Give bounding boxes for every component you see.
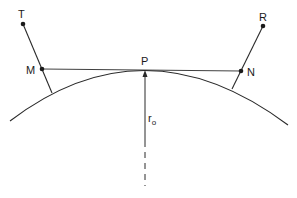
point-R xyxy=(261,24,266,29)
geometry-diagram: T R M N P ro xyxy=(0,0,297,198)
line-R-to-surface xyxy=(232,26,263,89)
label-radius-subscript: o xyxy=(152,118,157,127)
label-radius: ro xyxy=(148,112,157,127)
point-M xyxy=(40,67,45,72)
point-N xyxy=(239,69,244,74)
line-T-to-surface xyxy=(23,24,52,93)
point-T xyxy=(21,22,26,27)
label-P: P xyxy=(141,55,148,67)
label-T: T xyxy=(18,8,25,20)
radius-arrow xyxy=(143,70,148,186)
label-N: N xyxy=(247,66,255,78)
label-R: R xyxy=(259,11,267,23)
label-M: M xyxy=(26,64,35,76)
